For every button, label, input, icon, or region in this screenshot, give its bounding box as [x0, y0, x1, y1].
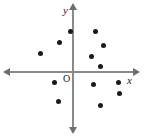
x-axis-right-arrow-icon — [133, 68, 140, 76]
x-axis-label: x — [127, 75, 132, 86]
data-point — [57, 40, 62, 45]
data-point — [52, 80, 57, 85]
data-point — [68, 29, 73, 34]
data-point — [38, 51, 43, 56]
y-axis-line — [72, 6, 74, 131]
data-point — [93, 29, 98, 34]
origin-label: O — [63, 74, 70, 84]
x-axis-left-arrow-icon — [3, 68, 10, 76]
data-point — [116, 80, 121, 85]
y-axis-down-arrow-icon — [69, 127, 77, 134]
data-point — [98, 64, 103, 69]
data-point — [91, 82, 96, 87]
scatter-plot-figure: x y O — [0, 0, 145, 137]
y-axis-label: y — [63, 5, 68, 16]
data-point — [101, 43, 106, 48]
data-point — [56, 99, 61, 104]
data-point — [117, 91, 122, 96]
y-axis-up-arrow-icon — [69, 3, 77, 10]
data-point — [89, 54, 94, 59]
data-point — [98, 103, 103, 108]
